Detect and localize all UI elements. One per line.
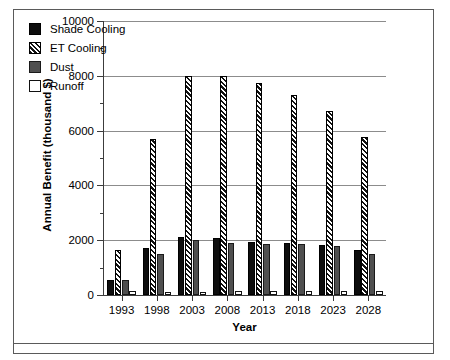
legend-swatch-open-white-icon (29, 80, 41, 92)
x-axis-tick-label: 2023 (320, 304, 346, 316)
legend-item: Runoff (29, 80, 125, 92)
x-axis-tick-label: 1998 (144, 304, 170, 316)
y-axis-minor-tick (100, 268, 104, 269)
bar (306, 291, 313, 295)
bar (115, 250, 122, 295)
plot-area: 0200040006000800010000199319982003200820… (103, 21, 386, 296)
bar (193, 240, 200, 295)
bar (334, 246, 341, 295)
y-axis-tick-label: 2000 (68, 234, 94, 246)
bar (129, 291, 136, 295)
x-axis-tick-label: 1993 (109, 304, 135, 316)
bar (165, 292, 172, 295)
bar (220, 76, 227, 295)
y-axis-tick (97, 295, 104, 296)
bar (369, 254, 376, 295)
chart-legend: Shade Cooling ET Cooling Dust Runoff (29, 23, 125, 92)
legend-item: Dust (29, 61, 125, 73)
legend-item-label: ET Cooling (50, 42, 107, 54)
bar (298, 244, 305, 295)
bar (157, 254, 164, 295)
bar (354, 250, 361, 295)
legend-item-label: Dust (50, 61, 74, 73)
x-axis-title: Year (103, 321, 386, 333)
gridline (104, 240, 386, 241)
gridline (104, 131, 386, 132)
bar (248, 242, 255, 295)
x-axis-tick (263, 295, 264, 301)
y-axis-minor-tick (100, 158, 104, 159)
bar (256, 83, 263, 295)
gridline (104, 76, 386, 77)
x-axis-tick (157, 295, 158, 301)
bar (178, 237, 185, 295)
legend-item: Shade Cooling (29, 23, 125, 35)
y-axis-tick (97, 131, 104, 132)
bar-chart-figure: Annual Benefit (thousand $) 020004000600… (13, 9, 434, 342)
x-axis-tick (192, 295, 193, 301)
x-axis-tick-label: 2003 (179, 304, 205, 316)
y-axis-tick-label: 4000 (68, 179, 94, 191)
legend-swatch-solid-black-icon (29, 23, 41, 35)
y-axis-minor-tick (100, 213, 104, 214)
bar (270, 291, 277, 295)
x-axis-tick (333, 295, 334, 301)
x-axis-tick-label: 2008 (215, 304, 241, 316)
bar (213, 238, 220, 295)
bar (376, 291, 383, 295)
x-axis-tick-label: 2028 (356, 304, 382, 316)
legend-swatch-hatched-icon (29, 42, 41, 54)
bar (361, 137, 368, 295)
bar (107, 280, 114, 295)
bar (235, 291, 242, 295)
bar (326, 111, 333, 295)
figure-divider (14, 343, 433, 344)
gridline (104, 21, 386, 22)
x-axis-tick (227, 295, 228, 301)
x-axis-tick (122, 295, 123, 301)
bar (122, 280, 129, 295)
bar (319, 245, 326, 295)
bar (263, 244, 270, 295)
y-axis-tick (97, 185, 104, 186)
bar (284, 243, 291, 295)
bar (143, 248, 150, 295)
bar (341, 291, 348, 295)
legend-swatch-solid-gray-icon (29, 61, 41, 73)
y-axis-tick-label: 6000 (68, 125, 94, 137)
gridline (104, 185, 386, 186)
legend-item: ET Cooling (29, 42, 125, 54)
x-axis-tick (298, 295, 299, 301)
x-axis-tick-label: 2018 (285, 304, 311, 316)
legend-item-label: Shade Cooling (50, 23, 125, 35)
y-axis-minor-tick (100, 103, 104, 104)
bar (228, 243, 235, 295)
x-axis-tick (368, 295, 369, 301)
legend-item-label: Runoff (50, 80, 84, 92)
bar (150, 139, 157, 295)
y-axis-tick (97, 240, 104, 241)
y-axis-tick (97, 21, 104, 22)
bar (185, 76, 192, 295)
y-axis-tick-label: 0 (88, 289, 94, 301)
bar (200, 292, 207, 295)
bar (291, 95, 298, 295)
x-axis-tick-label: 2013 (250, 304, 276, 316)
